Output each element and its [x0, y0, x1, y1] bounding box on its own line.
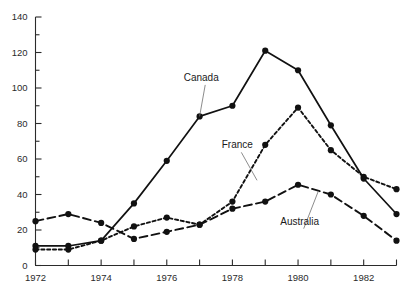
- series-line-australia: [36, 185, 397, 241]
- data-point: [229, 103, 235, 109]
- x-tick-label: 1980: [287, 272, 308, 283]
- x-tick-label: 1972: [25, 272, 46, 283]
- y-tick-label: 0: [22, 260, 27, 271]
- data-point: [229, 199, 235, 205]
- y-tick-label: 40: [17, 189, 28, 200]
- y-tick-label: 80: [17, 118, 28, 129]
- chart-container: 020406080100120140 197219741976197819801…: [0, 0, 411, 295]
- data-point: [393, 186, 399, 192]
- annotation-leader-france: [241, 152, 257, 180]
- data-point: [65, 246, 71, 252]
- series-label-australia: Australia: [280, 216, 319, 227]
- data-point: [328, 147, 334, 153]
- y-tick-label: 120: [12, 47, 28, 58]
- series-line-france: [36, 108, 397, 250]
- y-tick-label: 20: [17, 224, 28, 235]
- data-point: [361, 213, 367, 219]
- data-point: [262, 48, 268, 54]
- series-france: [32, 104, 399, 252]
- data-point: [393, 211, 399, 217]
- annotation-leader-canada: [200, 85, 206, 117]
- series-label-france: France: [222, 139, 254, 150]
- y-tick-label: 100: [12, 82, 28, 93]
- data-point: [295, 67, 301, 73]
- line-chart: 020406080100120140 197219741976197819801…: [0, 0, 411, 295]
- y-axis-tick-labels: 020406080100120140: [12, 11, 28, 271]
- x-tick-label: 1982: [353, 272, 374, 283]
- data-point: [262, 142, 268, 148]
- data-point: [164, 214, 170, 220]
- data-point: [32, 218, 38, 224]
- y-axis: 020406080100120140: [12, 11, 42, 271]
- y-axis-minor-ticks: [36, 35, 40, 248]
- series-label-canada: Canada: [184, 72, 219, 83]
- data-point: [361, 174, 367, 180]
- data-point: [393, 238, 399, 244]
- x-tick-label: 1974: [91, 272, 112, 283]
- data-point: [131, 223, 137, 229]
- data-point: [65, 211, 71, 217]
- data-point: [131, 200, 137, 206]
- data-point: [262, 199, 268, 205]
- data-point: [229, 206, 235, 212]
- x-axis-ticks: [36, 260, 397, 266]
- data-point: [98, 238, 104, 244]
- x-tick-label: 1978: [222, 272, 243, 283]
- data-point: [328, 122, 334, 128]
- data-point: [295, 182, 301, 188]
- data-point: [328, 191, 334, 197]
- y-tick-label: 60: [17, 153, 28, 164]
- data-point: [196, 222, 202, 228]
- data-point: [98, 220, 104, 226]
- data-point: [164, 229, 170, 235]
- data-point: [295, 104, 301, 110]
- x-tick-label: 1976: [156, 272, 177, 283]
- x-axis-tick-labels: 197219741976197819801982: [25, 272, 374, 283]
- x-axis: 197219741976197819801982: [25, 260, 397, 283]
- series-australia: [32, 182, 399, 244]
- y-tick-label: 140: [12, 11, 28, 22]
- data-point: [32, 246, 38, 252]
- data-point: [131, 236, 137, 242]
- data-point: [164, 158, 170, 164]
